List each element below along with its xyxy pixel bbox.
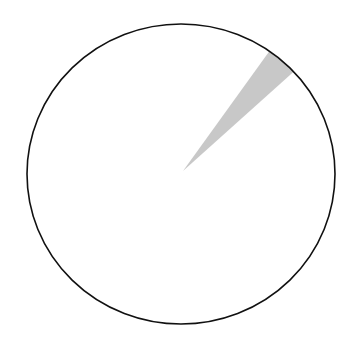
- pie-slices: [183, 51, 294, 171]
- pie-chart: [0, 0, 362, 346]
- pie-slice-0: [183, 51, 294, 171]
